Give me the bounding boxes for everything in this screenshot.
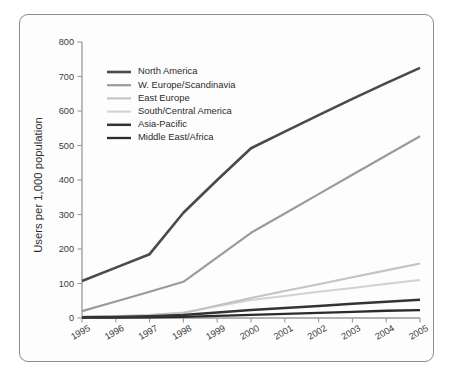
series-lines — [82, 68, 420, 318]
y-tick-label: 200 — [59, 244, 74, 254]
x-tick-label: 1999 — [204, 323, 227, 342]
legend-item-w-europe-scandinavia: W. Europe/Scandinavia — [107, 79, 236, 90]
legend-label: North America — [138, 65, 198, 76]
y-tick-label: 300 — [59, 210, 74, 220]
x-tick-label: 1995 — [69, 323, 92, 342]
legend-item-south-central-america: South/Central America — [107, 105, 233, 116]
legend-label: Asia-Pacific — [138, 118, 187, 129]
y-tick-label: 100 — [59, 279, 74, 289]
x-tick-label: 2000 — [238, 323, 261, 342]
x-tick-label: 2004 — [373, 323, 396, 342]
y-tick-label: 600 — [59, 106, 74, 116]
y-axis-title: Users per 1,000 population — [32, 117, 44, 253]
chart-figure-frame: Users per 1,000 population 0100200300400… — [19, 14, 434, 362]
y-tick-label: 500 — [59, 141, 74, 151]
y-tick-label: 0 — [69, 313, 74, 323]
legend-label: W. Europe/Scandinavia — [138, 79, 236, 90]
chart-plot-area: Users per 1,000 population 0100200300400… — [20, 15, 435, 363]
legend-label: East Europe — [138, 92, 190, 103]
y-axis-ticks: 0100200300400500600700800 — [59, 37, 82, 323]
x-tick-label: 2001 — [272, 323, 295, 342]
x-tick-label: 2002 — [306, 323, 329, 342]
x-axis-ticks: 1995199619971998199920002001200220032004… — [69, 318, 430, 342]
x-tick-label: 1996 — [103, 323, 126, 342]
series-line-north-america — [82, 68, 420, 281]
y-tick-label: 800 — [59, 37, 74, 47]
legend-item-north-america: North America — [107, 65, 198, 76]
legend-item-middle-east-africa: Middle East/Africa — [107, 131, 214, 142]
legend-label: South/Central America — [138, 105, 233, 116]
x-tick-label: 1997 — [137, 323, 160, 342]
line-chart: Users per 1,000 population 0100200300400… — [20, 15, 435, 363]
legend-label: Middle East/Africa — [138, 131, 214, 142]
chart-legend: North AmericaW. Europe/ScandinaviaEast E… — [107, 65, 236, 142]
x-tick-label: 2005 — [407, 323, 430, 342]
y-tick-label: 400 — [59, 175, 74, 185]
x-tick-label: 1998 — [171, 323, 194, 342]
legend-item-asia-pacific: Asia-Pacific — [107, 118, 187, 129]
x-tick-label: 2003 — [340, 323, 363, 342]
y-tick-label: 700 — [59, 72, 74, 82]
legend-item-east-europe: East Europe — [107, 92, 190, 103]
